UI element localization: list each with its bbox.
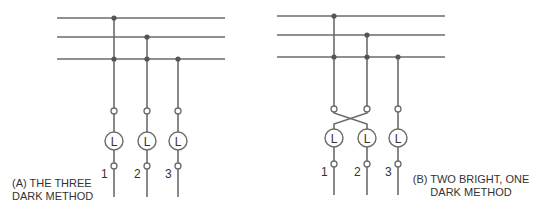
- phase-number: 3: [165, 167, 172, 181]
- lamp-icon: L: [138, 132, 156, 150]
- caption-line: DARK METHOD: [409, 186, 533, 199]
- lamp-icon: L: [105, 132, 123, 150]
- terminal-icon: [331, 161, 337, 167]
- junction-dot: [111, 56, 116, 61]
- lamp-label: L: [331, 132, 338, 146]
- lamp-label: L: [111, 135, 118, 149]
- terminal-icon: [144, 163, 150, 169]
- junction-dot: [144, 56, 149, 61]
- phase-number: 2: [354, 165, 361, 179]
- phase-number: 1: [101, 167, 108, 181]
- lamp-label: L: [395, 132, 402, 146]
- terminal-icon: [144, 108, 150, 114]
- terminal-icon: [364, 106, 370, 112]
- terminal-icon: [395, 161, 401, 167]
- junction-dot: [144, 34, 149, 39]
- terminal-icon: [175, 163, 181, 169]
- junction-dot: [175, 56, 180, 61]
- phase-number: 2: [134, 167, 141, 181]
- lamp-icon: L: [358, 129, 376, 147]
- caption-line: (B) TWO BRIGHT, ONE: [409, 173, 533, 186]
- caption-three-dark-method: (A) THE THREE DARK METHOD: [12, 177, 93, 203]
- lamp-label: L: [175, 135, 182, 149]
- phase-number: 1: [321, 165, 328, 179]
- terminal-icon: [331, 106, 337, 112]
- caption-two-bright-one-dark-method: (B) TWO BRIGHT, ONE DARK METHOD: [409, 173, 533, 199]
- junction-dot: [364, 54, 369, 59]
- terminal-icon: [395, 106, 401, 112]
- junction-dot: [395, 54, 400, 59]
- lamp-label: L: [144, 135, 151, 149]
- junction-dot: [331, 13, 336, 18]
- lamp-label: L: [364, 132, 371, 146]
- terminal-icon: [175, 108, 181, 114]
- terminal-icon: [111, 163, 117, 169]
- caption-line: DARK METHOD: [12, 190, 93, 203]
- junction-dot: [364, 32, 369, 37]
- lamp-icon: L: [325, 129, 343, 147]
- lamp-icon: L: [169, 132, 187, 150]
- phase-number: 3: [385, 165, 392, 179]
- panel-a: L L L 1 2 3: [57, 15, 225, 197]
- terminal-icon: [111, 108, 117, 114]
- junction-dot: [111, 15, 116, 20]
- panel-b: L L L 1 2 3: [277, 13, 445, 195]
- terminal-icon: [364, 161, 370, 167]
- junction-dot: [331, 54, 336, 59]
- caption-line: (A) THE THREE: [12, 177, 93, 190]
- lamp-icon: L: [389, 129, 407, 147]
